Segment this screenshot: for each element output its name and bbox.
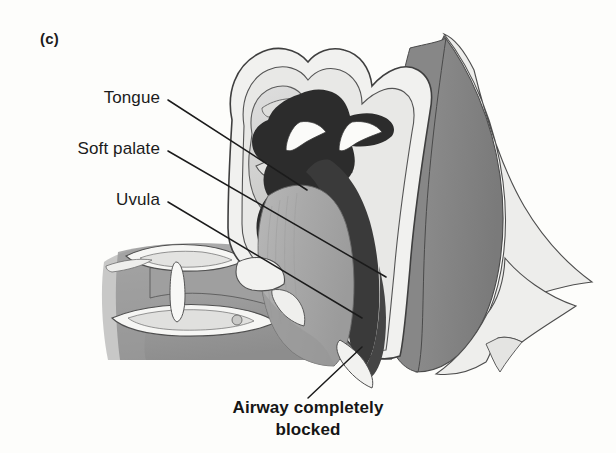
lower-lip-detail [232,315,242,325]
label-tongue: Tongue [104,88,160,108]
anatomy-illustration [0,0,616,453]
label-uvula: Uvula [116,190,160,210]
incisor-tooth [170,262,185,322]
label-soft-palate: Soft palate [78,139,160,159]
vertebra-notch [486,337,522,372]
caption-line-1: Airway completely [0,398,616,418]
airway-obstruction-figure: (c) Tongue Soft palate Uvula Airway comp… [0,0,616,453]
panel-label: (c) [40,30,59,47]
caption-line-2: blocked [0,420,616,440]
